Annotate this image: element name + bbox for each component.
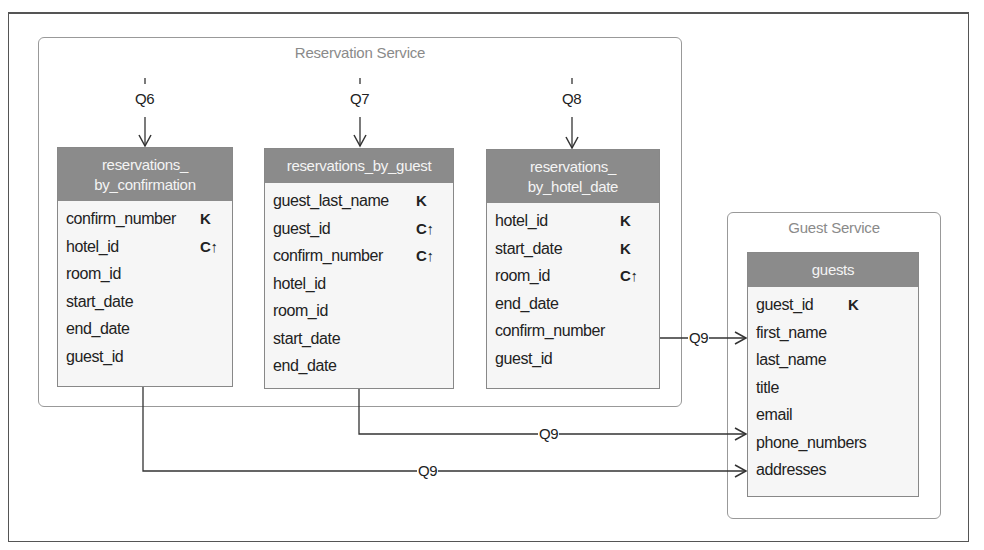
column-row: addresses [756,456,918,484]
table-header: guests [748,253,918,287]
clustering-key-badge: C↑ [200,233,218,261]
q8-label: Q8 [561,91,582,107]
table-title-line1: reservations_ [487,157,659,177]
table-header: reservations_by_guest [265,149,453,183]
partition-key-badge: K [848,291,858,319]
column-row: hotel_idC↑ [66,233,232,261]
table-reservations-by-guest: reservations_by_guest guest_last_nameK g… [264,148,454,389]
column-row: last_name [756,346,918,374]
column-row: start_dateK [495,235,659,263]
column-row: guest_idK [756,291,918,319]
column-row: guest_id [495,345,659,373]
column-row: email [756,401,918,429]
q9-label-hotel-date: Q9 [688,330,709,346]
table-title-line1: reservations_ [58,155,232,175]
q9-label-by-guest: Q9 [538,426,559,442]
q7-label: Q7 [349,91,370,107]
clustering-key-badge: C↑ [416,242,434,270]
column-row: guest_id [66,343,232,371]
column-row: end_date [66,315,232,343]
column-row: hotel_idK [495,207,659,235]
partition-key-badge: K [620,207,630,235]
partition-key-badge: K [416,187,426,215]
column-row: confirm_number [495,317,659,345]
table-header: reservations_ by_hotel_date [487,150,659,203]
q6-label: Q6 [134,91,155,107]
column-row: room_idC↑ [495,262,659,290]
table-title-line2: by_hotel_date [487,177,659,197]
q9-by-confirmation-to-guests-line [143,386,746,471]
column-row: first_name [756,319,918,347]
clustering-key-badge: C↑ [620,262,638,290]
table-header: reservations_ by_confirmation [58,148,232,201]
column-row: room_id [66,260,232,288]
column-row: end_date [495,290,659,318]
column-row: confirm_numberK [66,205,232,233]
table-title: reservations_by_guest [265,156,453,176]
column-row: start_date [273,325,453,353]
table-reservations-by-hotel-date: reservations_ by_hotel_date hotel_idK st… [486,149,660,389]
table-reservations-by-confirmation: reservations_ by_confirmation confirm_nu… [57,147,233,387]
column-row: title [756,374,918,402]
table-title: guests [748,260,918,280]
column-row: start_date [66,288,232,316]
column-row: end_date [273,352,453,380]
column-row: guest_idC↑ [273,215,453,243]
table-guests: guests guest_idK first_name last_name ti… [747,252,919,497]
column-row: hotel_id [273,270,453,298]
partition-key-badge: K [620,235,630,263]
table-title-line2: by_confirmation [58,175,232,195]
column-row: confirm_numberC↑ [273,242,453,270]
partition-key-badge: K [200,205,210,233]
column-row: phone_numbers [756,429,918,457]
column-row: room_id [273,297,453,325]
q9-label-by-confirmation: Q9 [417,463,438,479]
clustering-key-badge: C↑ [416,215,434,243]
column-row: guest_last_nameK [273,187,453,215]
